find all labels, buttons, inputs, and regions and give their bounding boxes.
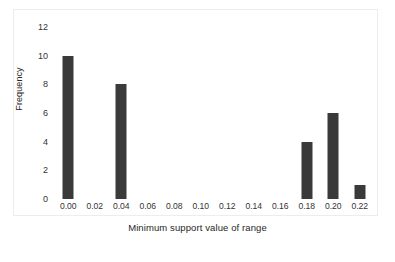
bar-chart-figure: Frequency 121086420 0.000.020.040.060.08… <box>0 0 395 262</box>
bar <box>354 185 365 199</box>
x-axis-title: Minimum support value of range <box>0 222 395 233</box>
x-axis-tick-labels: 0.000.020.040.060.080.100.120.140.160.18… <box>55 201 373 217</box>
bar-slot <box>214 27 241 199</box>
bar-slot <box>267 27 294 199</box>
bar-slot <box>188 27 215 199</box>
bar <box>328 113 339 199</box>
bar-slot <box>55 27 82 199</box>
bar <box>301 142 312 199</box>
y-axis-tick: 12 <box>26 22 48 32</box>
y-axis-tick: 4 <box>26 137 48 147</box>
bar-slot <box>347 27 374 199</box>
bar-slot <box>82 27 109 199</box>
bar-slot <box>108 27 135 199</box>
bar-slot <box>135 27 162 199</box>
y-axis-tick: 10 <box>26 51 48 61</box>
bar-slot <box>241 27 268 199</box>
bar-slot <box>294 27 321 199</box>
y-axis-tick: 8 <box>26 79 48 89</box>
bar <box>116 84 127 199</box>
y-axis-tick: 2 <box>26 165 48 175</box>
bar-slot <box>320 27 347 199</box>
y-axis-tick: 0 <box>26 194 48 204</box>
bar-slot <box>161 27 188 199</box>
y-axis-tick: 6 <box>26 108 48 118</box>
plot-area <box>55 27 373 199</box>
x-axis-tick: 0.22 <box>340 201 380 211</box>
bar <box>63 56 74 199</box>
